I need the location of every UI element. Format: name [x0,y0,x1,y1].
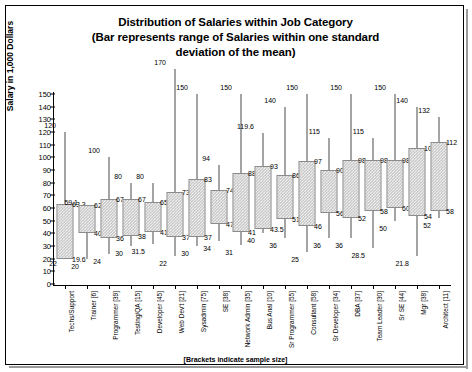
lower-whisker [153,232,154,244]
x-axis-tick-label: Trainer [6] [90,291,97,320]
max-value-label: 120 [44,122,56,129]
y-axis-tick-label: 140 [29,103,51,110]
bar-group: 150986050 [384,94,406,284]
x-axis-tick-mark [175,285,176,289]
max-value-label: 119.6 [237,122,254,129]
lower-whisker [329,213,330,238]
range-bar[interactable] [123,199,140,236]
bar-group: 150833730 [186,94,208,284]
range-bar[interactable] [233,173,250,233]
bar-group: 119.69343.540 [252,94,274,284]
y-axis-tick-label: 120 [29,129,51,136]
upper-whisker [307,94,308,161]
min-value-label: 30 [115,250,123,257]
range-bar[interactable] [409,148,426,215]
range-bar[interactable] [387,160,404,208]
max-value-label: 150 [374,84,386,91]
max-value-label: 170 [154,58,166,65]
x-axis-tick-mark [373,285,374,289]
bar-group: 150974625 [296,94,318,284]
lower-whisker [131,236,132,246]
x-axis-tick-mark [417,285,418,289]
chart-title: Distribution of Salaries within Job Cate… [6,15,465,60]
lower-whisker [373,211,374,248]
chart-title-line-3: deviation of the mean) [6,45,465,60]
lower-whisker [351,218,352,238]
bar-group: 94744734 [208,94,230,284]
min-value-label: 36 [269,242,277,249]
plot-area: 0102030405060708090100110120130140150120… [54,94,450,284]
range-bar[interactable] [255,166,272,229]
x-axis-line [53,285,451,286]
x-axis-tick-label: SE [38] [222,291,229,312]
x-axis-tick-mark [131,285,132,289]
max-value-label: 100 [88,147,100,154]
upper-whisker [197,94,198,179]
y-axis-tick-label: 70 [29,192,51,199]
x-axis-tick-mark [439,285,440,289]
lower-whisker [175,237,176,256]
y-axis-tick-label: 100 [29,154,51,161]
min-value-label: 36 [313,242,321,249]
range-bar[interactable] [431,142,448,210]
bar-group: 1401075421.8 [406,94,428,284]
frame-shadow-right [466,9,468,369]
max-value-label: 94 [202,154,210,161]
min-value-label: 20 [71,262,79,269]
range-bar[interactable] [277,175,294,219]
lower-whisker [197,237,198,246]
min-value-label: 31.5 [131,248,145,255]
upper-whisker [131,183,132,199]
y-axis-tick-label: 20 [29,255,51,262]
lower-whisker [395,208,396,221]
upper-whisker [373,138,374,160]
range-bar[interactable] [343,160,360,218]
range-bar[interactable] [365,160,382,211]
lower-whisker [109,238,110,253]
min-value-label: 24 [93,257,101,264]
x-axis-tick-mark [219,285,220,289]
x-axis-tick-label: Sr SE [44] [398,291,405,321]
range-bar[interactable] [167,192,184,238]
lower-whisker [417,216,418,257]
y-axis-tick-label: 0 [29,281,51,288]
upper-whisker [153,183,154,202]
lower-whisker [241,232,242,245]
range-bar[interactable] [321,170,338,213]
x-axis-tick-label: Team Leader [30] [376,291,383,342]
min-value-label: 22 [49,260,57,267]
x-axis-tick-label: DBA [37] [354,291,361,317]
range-bar[interactable] [299,161,316,226]
x-axis-tick-label: Sysadmin [75] [200,291,207,332]
y-axis-tick-label: 150 [29,91,51,98]
frame-shadow-bottom [9,366,468,368]
min-value-label: 31 [225,248,233,255]
y-axis-tick-label: 60 [29,205,51,212]
lower-whisker [285,219,286,238]
upper-whisker [241,94,242,173]
x-axis-tick-label: Sr Developer [34] [332,291,339,342]
chart-title-line-2: (Bar represents range of Salaries within… [6,30,465,45]
x-axis-tick-mark [197,285,198,289]
range-bar[interactable] [101,199,118,238]
range-bar[interactable] [189,179,206,237]
upper-whisker [395,94,396,160]
range-bar[interactable] [57,204,74,259]
range-bar[interactable] [211,190,228,224]
x-axis-tick-label: Consultant [58] [310,291,317,335]
x-axis-tick-label: Sr Programmer [55] [288,291,295,348]
x-axis-tick-mark [263,285,264,289]
range-bar[interactable] [79,205,96,233]
lower-whisker [263,229,264,233]
lower-whisker [219,224,220,240]
x-axis-tick-label: Testing/QA [15] [134,291,141,335]
bar-group: 1321125852 [428,94,450,284]
x-axis-tick-mark [395,285,396,289]
box-bottom-value-label: 58 [446,207,454,214]
x-axis-tick-mark [153,285,154,289]
bar-group: 80673830 [120,94,142,284]
bar-group: 115985828.5 [362,94,384,284]
x-axis-tick-mark [351,285,352,289]
range-bar[interactable] [145,202,162,232]
y-axis-tick-label: 40 [29,230,51,237]
